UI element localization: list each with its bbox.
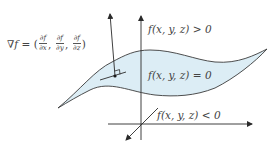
equals-open: = ( <box>18 38 38 50</box>
separator: , <box>65 38 72 50</box>
gradient-formula: ∇ f = ( ∂f ∂x , ∂f ∂y , ∂f ∂z ) <box>7 35 86 52</box>
close-paren: ) <box>82 38 86 50</box>
label-positive-region: f(x, y, z) > 0 <box>148 24 212 35</box>
partial-z: ∂f ∂z <box>73 35 81 52</box>
partial-y: ∂f ∂y <box>56 35 64 52</box>
label-level-surface: f(x, y, z) = 0 <box>148 70 212 81</box>
separator: , <box>48 38 55 50</box>
diagram-svg <box>0 0 278 149</box>
label-negative-region: f(x, y, z) < 0 <box>157 110 221 121</box>
partial-x: ∂f ∂x <box>39 35 47 52</box>
surface-point <box>113 74 116 77</box>
diagram-canvas: ∇ f = ( ∂f ∂x , ∂f ∂y , ∂f ∂z ) f(x, y, … <box>0 0 278 149</box>
